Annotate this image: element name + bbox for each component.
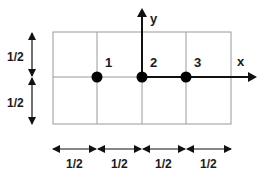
y-axis-arrow-icon <box>137 8 147 17</box>
x-axis-label: x <box>237 54 245 69</box>
axes: y x <box>137 8 257 82</box>
dim-h2-label: 1/2 <box>111 157 128 171</box>
y-axis-label: y <box>150 11 158 26</box>
dim-v1-label: 1/2 <box>7 50 24 64</box>
point-2 <box>137 72 148 83</box>
point-2-label: 2 <box>150 55 157 70</box>
point-3 <box>181 72 192 83</box>
point-1 <box>92 72 103 83</box>
dim-h1-label: 1/2 <box>66 157 83 171</box>
points: 1 2 3 <box>92 55 202 83</box>
point-1-label: 1 <box>105 55 112 70</box>
x-axis-arrow-icon <box>248 72 257 82</box>
dim-v2-label: 1/2 <box>7 96 24 110</box>
dim-h4-label: 1/2 <box>200 157 217 171</box>
point-3-label: 3 <box>194 55 201 70</box>
grid-diagram: y x 1 2 3 1/2 1/2 1/2 1/2 1/2 1/2 <box>0 0 264 179</box>
dim-h3-label: 1/2 <box>155 157 172 171</box>
